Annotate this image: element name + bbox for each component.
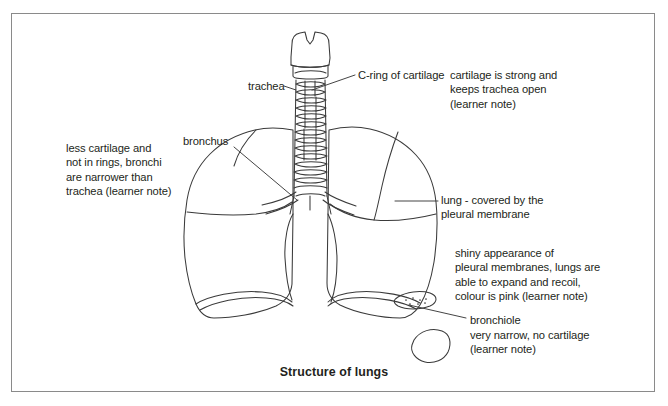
- trachea-shape: [294, 80, 327, 210]
- larynx-shape: [291, 32, 330, 79]
- note-bronchi: less cartilage and not in rings, bronchi…: [66, 141, 171, 198]
- label-bronchus: bronchus: [183, 134, 228, 148]
- left-lung-shape: [184, 128, 293, 318]
- note-bronchiole: very narrow, no cartilage (learner note): [470, 328, 589, 357]
- leader-lines: [234, 75, 466, 318]
- note-lung-pleural-membrane: lung - covered by the pleural membrane: [441, 193, 543, 222]
- label-trachea: trachea: [248, 79, 285, 93]
- bronchiole-inset-shape: [412, 329, 450, 362]
- leader-bronchus: [234, 147, 297, 200]
- label-bronchiole: bronchiole: [470, 313, 521, 327]
- right-lung-shape: [327, 127, 437, 318]
- label-c-ring-of-cartilage: C-ring of cartilage: [358, 68, 444, 82]
- note-cartilage: cartilage is strong and keeps trachea op…: [450, 68, 557, 111]
- leader-trachea: [284, 86, 296, 90]
- leader-bronchiole: [409, 305, 466, 318]
- note-pleural-membranes: shiny appearance of pleural membranes, l…: [455, 246, 600, 303]
- figure-page: trachea C-ring of cartilage cartilage is…: [0, 0, 668, 406]
- figure-caption: Structure of lungs: [0, 365, 668, 379]
